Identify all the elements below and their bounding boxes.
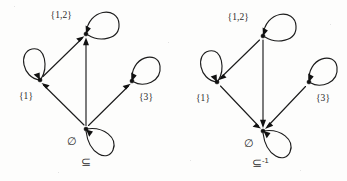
node-12-dot: [261, 34, 265, 38]
caption-inverse-superscript: -1: [262, 156, 269, 165]
arrow-head: [265, 122, 273, 129]
node-empty-dot: [261, 129, 265, 133]
arrow-head: [83, 38, 89, 46]
self-loop-node-empty: [86, 129, 114, 156]
arrow-head: [260, 120, 266, 128]
node-1-dot: [215, 80, 219, 84]
edge-empty-to-12: [83, 38, 89, 126]
arrow-head: [123, 84, 131, 90]
node-empty-dot: [84, 127, 88, 131]
node-label-12: {1,2}: [228, 12, 250, 22]
node-3-dot: [130, 79, 134, 83]
diagram-canvas: {1,2} {1} {3} ∅ ⊆: [0, 0, 347, 181]
node-3-dot: [307, 80, 311, 84]
node-12-dot: [84, 32, 88, 36]
node-label-empty: ∅: [244, 137, 254, 149]
self-loop-node-3: [131, 57, 160, 84]
self-loop-node-empty: [263, 131, 291, 158]
edge-1-to-12: [43, 36, 84, 76]
node-label-3: {3}: [316, 93, 330, 103]
self-loop-node-3: [308, 58, 337, 85]
self-loop-node-1: [201, 51, 222, 82]
edge-12-to-empty: [260, 40, 266, 128]
node-label-1: {1}: [196, 93, 210, 103]
self-loop-node-12: [263, 14, 296, 41]
node-label-empty: ∅: [67, 135, 77, 147]
self-loop-node-12: [86, 12, 119, 39]
node-label-1: {1}: [19, 91, 33, 101]
caption-subset: ⊆: [81, 155, 91, 169]
node-label-12: {1,2}: [51, 10, 73, 20]
diagram-inverse-subset-relation: {1,2} {1} {3} ∅ ⊆-1: [196, 12, 337, 170]
edge-empty-to-3: [89, 84, 131, 126]
arrow-head: [76, 36, 84, 42]
caption-inverse-base: ⊆: [252, 156, 262, 170]
edge-12-to-1: [218, 40, 259, 80]
caption-inverse-subset: ⊆-1: [252, 156, 269, 171]
arrow-head: [42, 83, 50, 89]
figure-root: {1,2} {1} {3} ∅ ⊆: [0, 0, 347, 181]
edge-1-to-empty: [221, 86, 262, 129]
edge-group: [42, 36, 131, 125]
edge-empty-to-1: [42, 83, 85, 125]
arrow-head: [253, 123, 261, 128]
node-1-dot: [38, 78, 42, 82]
node-label-3: {3}: [139, 92, 153, 102]
self-loop-node-1: [24, 49, 45, 80]
edge-group: [218, 40, 305, 129]
edge-3-to-empty: [265, 87, 306, 130]
scan-speckles: [14, 6, 331, 173]
diagram-subset-relation: {1,2} {1} {3} ∅ ⊆: [19, 10, 160, 169]
